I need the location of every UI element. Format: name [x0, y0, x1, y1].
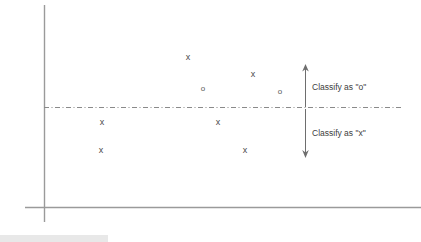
- classify-x-arrow: [302, 109, 309, 158]
- classification-scatter-plot-figure: x x o o x x x x Classify as "o" Classify…: [0, 0, 421, 242]
- data-point-x: x: [186, 53, 191, 62]
- data-point-x: x: [100, 118, 105, 127]
- plot-canvas: [0, 0, 421, 242]
- classify-o-arrow: [302, 64, 309, 107]
- data-point-x: x: [99, 146, 104, 155]
- classify-as-o-label: Classify as "o": [312, 83, 366, 92]
- classify-as-x-label: Classify as "x": [312, 129, 366, 138]
- data-point-o: o: [201, 85, 205, 93]
- data-point-x: x: [243, 146, 248, 155]
- data-point-o: o: [278, 88, 282, 96]
- data-point-x: x: [216, 118, 221, 127]
- data-point-x: x: [251, 70, 256, 79]
- scroll-bar-remnant: [0, 235, 108, 242]
